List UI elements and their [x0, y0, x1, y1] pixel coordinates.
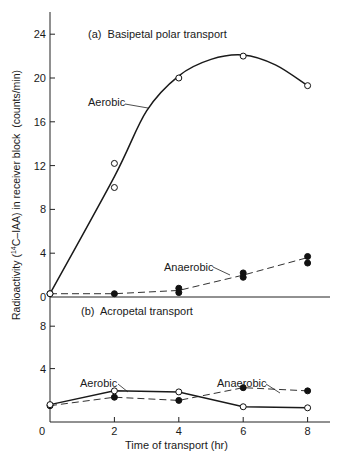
anaerobic-data-point — [176, 397, 182, 403]
x-tick-label: 0 — [39, 425, 45, 437]
panel-a-aerobic-label: Aerobic — [88, 96, 126, 108]
panel-b-y-ticks: 48 — [40, 320, 55, 374]
x-tick-label: 8 — [305, 425, 311, 437]
panel-a-y-ticks: 04812162024 — [34, 28, 55, 303]
panel-b: 48 02468 (b) Acropetal transport Aerobic… — [39, 297, 330, 451]
y-axis-label-pre: Radioactivity ( — [10, 254, 22, 320]
anaerobic-data-point — [305, 260, 311, 266]
aerobic-data-point — [47, 291, 53, 297]
y-tick-label: 4 — [40, 363, 46, 375]
y-tick-label: 24 — [34, 28, 46, 40]
aerobic-data-point — [176, 75, 182, 81]
y-tick-label: 4 — [40, 247, 46, 259]
aerobic-data-point — [176, 389, 182, 395]
panel-a-title: (a) Basipetal polar transport — [88, 28, 227, 40]
y-axis-label: Radioactivity (14C–IAA) in receiver bloc… — [10, 70, 22, 320]
panel-a-anaerobic-label: Anaerobic — [164, 261, 214, 273]
x-tick-label: 4 — [176, 425, 182, 437]
y-tick-label: 8 — [40, 320, 46, 332]
panel-b-anaerobic-label: Anaerobic — [217, 377, 267, 389]
panel-b-title: (b) Acropetal transport — [81, 305, 193, 317]
aerobic-data-point — [305, 83, 311, 89]
transport-chart: 04812162024 (a) Basipetal polar transpor… — [0, 0, 338, 462]
x-tick-label: 2 — [111, 425, 117, 437]
panel-b-anaerobic-leader — [266, 384, 280, 393]
panel-a-anaerobic-leader — [213, 267, 230, 275]
x-tick-label: 6 — [240, 425, 246, 437]
anaerobic-data-point — [111, 394, 117, 400]
aerobic-data-point — [305, 405, 311, 411]
y-tick-label: 20 — [34, 72, 46, 84]
aerobic-data-point — [240, 404, 246, 410]
y-axis-label-post: C–IAA) in receiver block (counts/min) — [10, 70, 22, 246]
y-axis-label-sup: 14 — [10, 246, 17, 254]
panel-a: 04812162024 (a) Basipetal polar transpor… — [34, 12, 330, 303]
aerobic-data-point — [111, 160, 117, 166]
aerobic-data-point — [111, 185, 117, 191]
x-ticks: 02468 — [39, 417, 311, 437]
x-axis-label: Time of transport (hr) — [125, 439, 228, 451]
anaerobic-data-point — [111, 291, 117, 297]
anaerobic-data-point — [305, 253, 311, 259]
anaerobic-data-point — [176, 290, 182, 296]
y-tick-label: 0 — [40, 291, 46, 303]
y-tick-label: 16 — [34, 116, 46, 128]
aerobic-data-point — [240, 53, 246, 59]
y-tick-label: 12 — [34, 160, 46, 172]
panel-b-aerobic-label: Aerobic — [80, 377, 118, 389]
anaerobic-data-point — [305, 388, 311, 394]
y-tick-label: 8 — [40, 203, 46, 215]
panel-a-aerobic-leader — [125, 104, 148, 108]
aerobic-data-point — [47, 402, 53, 408]
aerobic-line — [50, 55, 308, 294]
anaerobic-data-point — [240, 274, 246, 280]
